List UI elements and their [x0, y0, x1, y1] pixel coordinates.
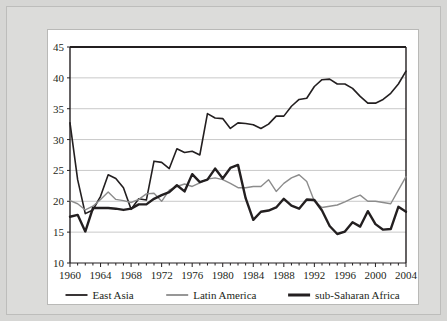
y-tick-label-30: 30 — [53, 134, 65, 146]
x-tick-label-2000: 2000 — [364, 269, 387, 281]
y-axis-tick-labels: 1015202530354045 — [53, 41, 65, 269]
x-axis-tick-labels: 1960196419681972197619801984198819921996… — [59, 269, 418, 281]
line-chart: 1015202530354045 19601964196819721976198… — [48, 30, 420, 306]
y-tick-label-20: 20 — [53, 195, 65, 207]
x-tick-label-1972: 1972 — [151, 269, 173, 281]
x-tick-label-1980: 1980 — [212, 269, 235, 281]
series-line-latin-america — [70, 175, 406, 210]
figure-inner-panel: 1015202530354045 19601964196819721976198… — [47, 29, 419, 305]
y-tick-label-40: 40 — [53, 72, 65, 84]
legend-label-east-asia: East Asia — [93, 289, 134, 301]
x-tick-label-1964: 1964 — [90, 269, 113, 281]
figure-root: 1015202530354045 19601964196819721976198… — [0, 0, 447, 321]
x-tick-label-1984: 1984 — [242, 269, 265, 281]
x-tick-label-1960: 1960 — [59, 269, 82, 281]
y-tick-label-15: 15 — [53, 226, 65, 238]
x-tick-label-2004: 2004 — [395, 269, 418, 281]
x-tick-label-1968: 1968 — [120, 269, 143, 281]
y-tick-label-35: 35 — [53, 103, 65, 115]
x-tick-label-1992: 1992 — [303, 269, 325, 281]
axis-layer — [67, 47, 406, 267]
chart-legend: East AsiaLatin Americasub-Saharan Africa — [66, 289, 400, 301]
legend-label-sub-saharan-africa: sub-Saharan Africa — [315, 289, 400, 301]
data-series-layer — [70, 71, 406, 234]
x-tick-label-1996: 1996 — [334, 269, 357, 281]
series-line-sub-saharan-africa — [70, 165, 406, 234]
x-tick-label-1988: 1988 — [273, 269, 296, 281]
y-tick-label-10: 10 — [53, 257, 65, 269]
series-line-east-asia — [70, 71, 406, 214]
figure-outer-frame: 1015202530354045 19601964196819721976198… — [6, 6, 441, 315]
legend-label-latin-america: Latin America — [193, 289, 256, 301]
y-tick-label-25: 25 — [53, 164, 65, 176]
y-tick-label-45: 45 — [53, 41, 65, 53]
x-tick-label-1976: 1976 — [181, 269, 204, 281]
